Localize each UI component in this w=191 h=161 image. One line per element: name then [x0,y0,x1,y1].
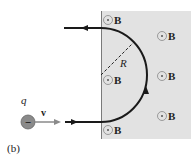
field-label: B [168,110,176,122]
arrow-right-icon [71,119,78,125]
field-label: B [114,14,122,26]
magnetic-field-diagram: B B B B B B R − q v (b) [0,0,191,161]
field-label: B [168,30,176,42]
charge-sign: − [25,116,31,128]
velocity-label: v [41,107,46,118]
arrow-left-icon [81,25,88,31]
field-label: B [114,124,122,136]
radius-label: R [119,57,127,69]
panel-label: (b) [7,142,20,155]
charge-label: q [21,94,27,106]
velocity-arrowhead-icon [54,119,61,125]
field-label: B [114,74,122,86]
field-label: B [168,70,176,82]
